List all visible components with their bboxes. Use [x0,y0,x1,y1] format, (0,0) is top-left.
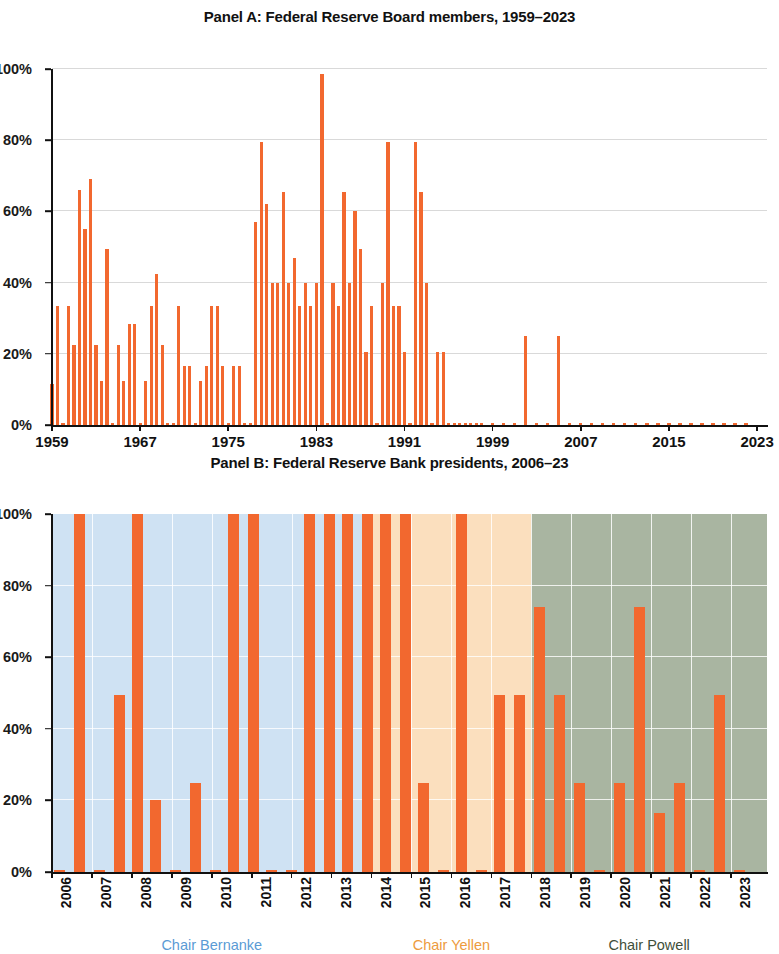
bar [248,514,259,872]
bar [418,783,429,873]
y-tick-mark [45,282,51,284]
bar [78,190,81,425]
y-tick-mark [45,656,51,658]
y-tick-label: 60% [3,649,32,665]
y-axis-line [51,69,53,426]
x-tick-label: 2010 [218,877,234,908]
x-tick-mark [331,872,333,878]
bar [276,283,279,425]
gridline-x-2020 [611,514,612,872]
era-label: Chair Yellen [413,937,490,953]
x-tick-label: 2013 [338,877,354,908]
x-tick-label: 2012 [298,877,314,908]
bar [614,783,625,873]
bar [216,306,219,425]
bar [320,74,323,425]
bar [364,352,367,425]
x-tick-label: 2021 [657,877,673,908]
x-tick-mark [371,872,373,878]
bar [634,607,645,872]
bar [397,306,400,425]
x-tick-mark [51,425,53,431]
gridline-x-2007 [92,514,93,872]
x-tick-mark [411,872,413,878]
y-tick-label: 40% [3,275,32,291]
y-tick-label: 20% [3,792,32,808]
x-tick-label: 2020 [617,877,633,908]
bar [419,192,422,425]
bar [105,249,108,425]
bar [260,142,263,425]
gridline-y-60 [52,210,767,211]
bar [205,366,208,425]
panel-a-plot-area [52,69,767,425]
bar [232,366,235,425]
x-tick-mark [690,872,692,878]
gridline-x-2021 [651,514,652,872]
panel-b-x-axis: 2006200720082009201020112012201320142015… [52,877,767,939]
bar [524,336,527,425]
bar [554,695,565,872]
bar [534,607,545,872]
gridline-x-2022 [691,514,692,872]
x-tick-label: 2022 [697,877,713,908]
bar [114,695,125,872]
gridline-y-40 [52,282,767,283]
y-tick-label: 100% [0,506,32,522]
bar [177,306,180,425]
panel-b-y-axis: 0%20%40%60%80%100% [0,514,44,872]
bar [100,381,103,426]
bar [188,366,191,425]
x-tick-label: 2011 [258,877,274,907]
y-axis-line [51,514,53,873]
bar [654,813,665,872]
bar [370,306,373,425]
bar [309,306,312,425]
y-tick-label: 0% [11,417,32,433]
bar [228,514,239,872]
bar [150,800,161,872]
x-tick-mark [730,872,732,878]
x-tick-mark [570,872,572,878]
bar [403,352,406,425]
bar [271,283,274,425]
x-tick-label: 2017 [497,877,513,908]
x-tick-label: 2006 [58,877,74,908]
gridline-x-2023 [731,514,732,872]
bar [304,514,315,872]
bar [83,229,86,425]
bar [144,381,147,426]
bar [210,306,213,425]
bar [514,695,525,872]
bar [574,783,585,873]
bar [380,514,391,872]
panel-b-era-legend: Chair BernankeChair YellenChair Powell [52,937,767,954]
panel-b-title: Panel B: Federal Reserve Bank presidents… [0,440,779,471]
x-tick-mark [316,425,318,431]
bar [72,345,75,425]
bar [122,381,125,426]
era-label: Chair Bernanke [161,937,262,953]
gridline-x-2017 [491,514,492,872]
gridline-y-100 [52,68,767,69]
bar [293,258,296,425]
bar [381,283,384,425]
y-tick-mark [45,211,51,213]
x-tick-mark [211,872,213,878]
gridline-x-2018 [531,514,532,872]
bar [67,306,70,425]
bar [392,306,395,425]
bar [298,306,301,425]
x-tick-label: 2019 [577,877,593,908]
bar [342,514,353,872]
x-tick-mark [668,425,670,431]
bar [494,695,505,872]
bar [150,306,153,425]
x-axis-line [51,872,768,874]
bar [714,695,725,872]
x-tick-label: 2015 [417,877,433,908]
x-tick-mark [131,872,133,878]
bar [331,283,334,425]
bar [342,192,345,425]
x-tick-mark [171,872,173,878]
